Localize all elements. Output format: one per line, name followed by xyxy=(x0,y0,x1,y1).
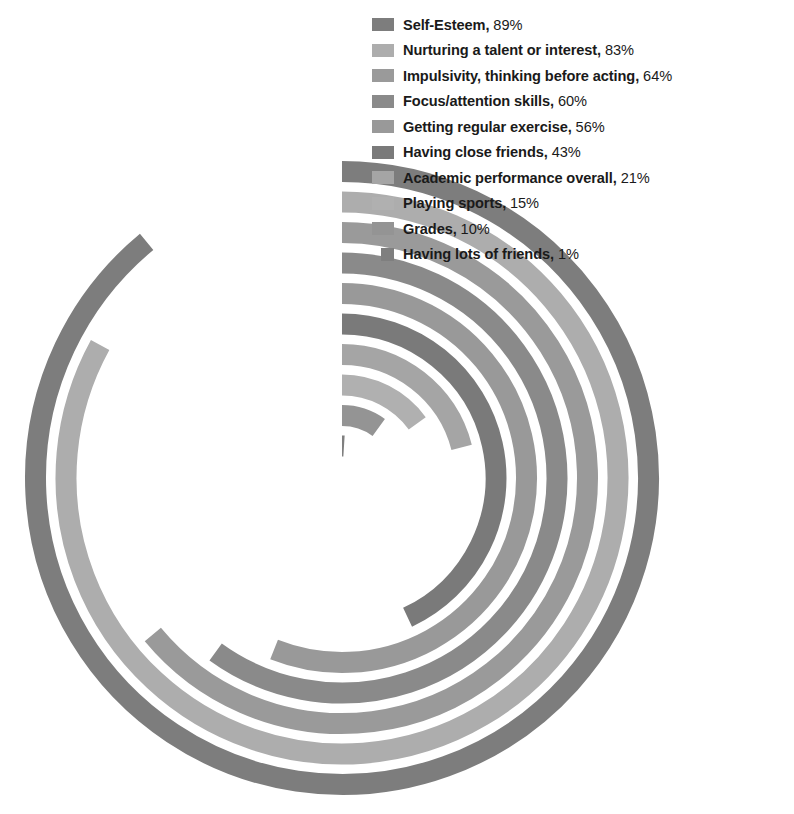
legend-item[interactable]: Nurturing a talent or interest, 83% xyxy=(372,38,772,64)
legend-value-label: 89% xyxy=(493,17,522,33)
legend-text: Having close friends, 43% xyxy=(403,144,581,160)
legend-text: Playing sports, 15% xyxy=(403,195,539,211)
legend-value-label: 83% xyxy=(605,42,634,58)
legend-item[interactable]: Grades, 10% xyxy=(372,216,772,242)
legend-category-label: Self-Esteem, xyxy=(403,17,493,33)
legend-category-label: Impulsivity, thinking before acting, xyxy=(403,68,643,84)
legend-value-label: 60% xyxy=(558,93,587,109)
legend-value-label: 21% xyxy=(621,170,650,186)
legend-category-label: Getting regular exercise, xyxy=(403,119,576,135)
legend-swatch-icon xyxy=(372,44,394,57)
legend-text: Academic performance overall, 21% xyxy=(403,170,650,186)
legend-text: Grades, 10% xyxy=(403,221,490,237)
legend-text: Focus/attention skills, 60% xyxy=(403,93,587,109)
legend-swatch-icon xyxy=(381,248,394,261)
legend-swatch-icon xyxy=(372,146,394,159)
arc-bar xyxy=(342,324,496,617)
legend-category-label: Academic performance overall, xyxy=(403,170,621,186)
radial-bar-chart: Self-Esteem, 89%Nurturing a talent or in… xyxy=(0,0,794,814)
legend-item[interactable]: Playing sports, 15% xyxy=(372,191,772,217)
legend-category-label: Having close friends, xyxy=(403,144,552,160)
legend-text: Having lots of friends, 1% xyxy=(403,246,579,262)
legend-text: Nurturing a talent or interest, 83% xyxy=(403,42,634,58)
legend-category-label: Playing sports, xyxy=(403,195,510,211)
legend-value-label: 1% xyxy=(558,246,579,262)
legend-value-label: 56% xyxy=(576,119,605,135)
legend-swatch-icon xyxy=(372,222,394,235)
legend-swatch-icon xyxy=(372,120,394,133)
legend-text: Getting regular exercise, 56% xyxy=(403,119,605,135)
legend-category-label: Grades, xyxy=(403,221,461,237)
legend-value-label: 15% xyxy=(510,195,539,211)
legend-value-label: 64% xyxy=(643,68,672,84)
chart-legend: Self-Esteem, 89%Nurturing a talent or in… xyxy=(372,12,772,267)
legend-text: Self-Esteem, 89% xyxy=(403,17,522,33)
legend-item[interactable]: Self-Esteem, 89% xyxy=(372,12,772,38)
legend-swatch-icon xyxy=(372,197,394,210)
arc-bar xyxy=(342,416,379,428)
legend-item[interactable]: Having lots of friends, 1% xyxy=(372,242,772,268)
legend-swatch-icon xyxy=(372,18,394,31)
legend-swatch-icon xyxy=(372,95,394,108)
legend-swatch-icon xyxy=(372,171,394,184)
legend-category-label: Nurturing a talent or interest, xyxy=(403,42,605,58)
legend-item[interactable]: Getting regular exercise, 56% xyxy=(372,114,772,140)
legend-item[interactable]: Academic performance overall, 21% xyxy=(372,165,772,191)
legend-item[interactable]: Having close friends, 43% xyxy=(372,140,772,166)
legend-category-label: Having lots of friends, xyxy=(403,246,558,262)
legend-value-label: 10% xyxy=(461,221,490,237)
legend-text: Impulsivity, thinking before acting, 64% xyxy=(403,68,672,84)
legend-value-label: 43% xyxy=(552,144,581,160)
legend-item[interactable]: Impulsivity, thinking before acting, 64% xyxy=(372,63,772,89)
legend-category-label: Focus/attention skills, xyxy=(403,93,558,109)
legend-swatch-icon xyxy=(372,69,394,82)
legend-item[interactable]: Focus/attention skills, 60% xyxy=(372,89,772,115)
